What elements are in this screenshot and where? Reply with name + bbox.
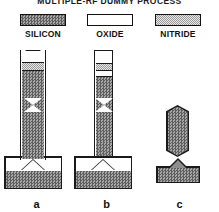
figure-row: a	[0, 46, 219, 212]
figure-c-base-silicon	[158, 168, 199, 182]
legend-swatch-nitride	[155, 14, 201, 26]
legend-label-oxide: OXIDE	[73, 29, 147, 39]
figure-a: a	[0, 46, 73, 212]
legend-swatch-silicon	[20, 14, 66, 26]
figure-b-caption: b	[70, 198, 143, 210]
legend-label-silicon: SILICON	[6, 29, 80, 39]
figure-b-stage	[70, 46, 143, 192]
figure-c-stage	[143, 46, 216, 192]
figure-a-substrate-silicon	[6, 171, 61, 188]
figure-b: b	[70, 46, 143, 212]
figure-a-notch-upper	[24, 98, 42, 105]
figure-a-nitride-band	[22, 63, 44, 70]
figure-a-chamfer-left	[21, 50, 26, 56]
figure-b-groove	[92, 160, 114, 170]
figure-b-notch-upper	[95, 98, 113, 105]
figure-a-stage	[0, 46, 73, 192]
figure-a-chamfer-right	[40, 50, 45, 56]
figure-a-foot-edge-right	[45, 146, 46, 160]
legend: SILICON OXIDE NITRIDE	[0, 14, 219, 44]
figure-a-groove	[22, 160, 44, 170]
figure-c-caption: c	[143, 198, 216, 210]
legend-item-oxide: OXIDE	[73, 14, 147, 39]
figure-b-substrate-silicon	[76, 171, 131, 188]
figure-c: c	[143, 46, 216, 212]
figure-a-caption: a	[0, 198, 73, 210]
figure-c-released-beam	[168, 107, 188, 156]
figure-a-pillar-foot	[22, 151, 44, 159]
process-diagram-figure: MULTIPLE-RF DUMMY PROCESS SILICON OXIDE …	[0, 0, 219, 212]
figure-c-base-peak	[170, 160, 186, 168]
legend-item-nitride: NITRIDE	[141, 14, 215, 39]
figure-b-notch-lower	[95, 105, 113, 112]
legend-swatch-oxide	[87, 14, 133, 26]
figure-title: MULTIPLE-RF DUMMY PROCESS	[0, 0, 219, 6]
figure-a-notch-lower	[24, 105, 42, 112]
figure-b-oxide-cap	[96, 52, 112, 64]
figure-a-foot-edge-left	[20, 146, 21, 160]
legend-label-nitride: NITRIDE	[141, 29, 215, 39]
legend-item-silicon: SILICON	[6, 14, 80, 39]
